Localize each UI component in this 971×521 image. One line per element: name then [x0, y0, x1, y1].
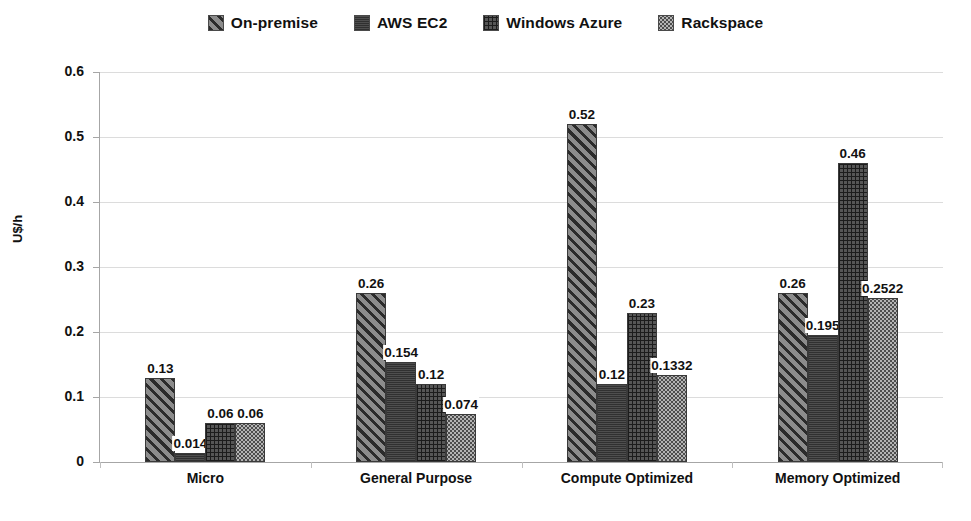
bar-rect	[416, 384, 446, 462]
x-axis-tick-label: General Purpose	[311, 470, 522, 486]
bar-value-label: 0.195	[805, 318, 841, 333]
legend-item-on-premise[interactable]: On-premise	[208, 14, 318, 32]
bar-group: 0.520.120.230.1332	[567, 72, 687, 462]
y-axis-tick	[93, 137, 100, 138]
x-axis-tick	[942, 462, 943, 468]
y-axis-tick	[93, 462, 100, 463]
x-axis-tick	[311, 462, 312, 468]
bar-value-label: 0.06	[206, 406, 234, 421]
legend-label-aws-ec2: AWS EC2	[377, 14, 447, 32]
bar-rect	[627, 313, 657, 463]
legend-swatch-icon-rackspace	[658, 15, 674, 31]
plot-area: 0.130.0140.060.060.260.1540.120.0740.520…	[100, 72, 943, 462]
bar-value-label: 0.26	[357, 276, 385, 291]
legend-item-windows-azure[interactable]: Windows Azure	[483, 14, 622, 32]
bar-rect	[205, 423, 235, 462]
bar-value-label: 0.154	[383, 345, 419, 360]
y-axis-tick	[93, 72, 100, 73]
bar-rect	[145, 378, 175, 463]
bar-rect	[868, 298, 898, 462]
legend-item-rackspace[interactable]: Rackspace	[658, 14, 763, 32]
bar[interactable]: 0.06	[235, 423, 265, 462]
y-axis-tick-label: 0.1	[0, 388, 84, 404]
bar-value-label: 0.12	[598, 367, 626, 382]
bar[interactable]: 0.52	[567, 124, 597, 462]
y-axis-tick-label: 0.2	[0, 323, 84, 339]
bar-value-label: 0.26	[778, 276, 806, 291]
bar-value-label: 0.06	[236, 406, 264, 421]
bar-rect	[446, 414, 476, 462]
bar-rect	[597, 384, 627, 462]
legend-label-rackspace: Rackspace	[681, 14, 763, 32]
bar[interactable]: 0.26	[356, 293, 386, 462]
bar-value-label: 0.074	[443, 397, 479, 412]
legend-label-windows-azure: Windows Azure	[506, 14, 622, 32]
chart-legend: On-premise AWS EC2 Windows Azure Rackspa…	[0, 14, 971, 32]
x-axis-tick	[732, 462, 733, 468]
bar-rect	[235, 423, 265, 462]
bar[interactable]: 0.12	[416, 384, 446, 462]
bar[interactable]: 0.195	[808, 335, 838, 462]
x-axis-tick-label: Micro	[100, 470, 311, 486]
legend-swatch-icon-aws-ec2	[354, 15, 370, 31]
bar-rect	[838, 163, 868, 462]
bar-chart: On-premise AWS EC2 Windows Azure Rackspa…	[0, 0, 971, 521]
bar-group: 0.260.1950.460.2522	[778, 72, 898, 462]
bar-rect	[386, 362, 416, 462]
legend-label-on-premise: On-premise	[231, 14, 318, 32]
legend-item-aws-ec2[interactable]: AWS EC2	[354, 14, 447, 32]
bar-value-label: 0.014	[172, 436, 208, 451]
bar-value-label: 0.52	[568, 107, 596, 122]
x-axis-tick-label: Memory Optimized	[732, 470, 943, 486]
bar-group: 0.130.0140.060.06	[145, 72, 265, 462]
y-axis-tick-label: 0.6	[0, 63, 84, 79]
bar[interactable]: 0.2522	[868, 298, 898, 462]
y-axis-title: U$/h	[10, 215, 25, 243]
bar-rect	[778, 293, 808, 462]
bar[interactable]: 0.1332	[657, 375, 687, 462]
bar[interactable]: 0.12	[597, 384, 627, 462]
bar[interactable]: 0.13	[145, 378, 175, 463]
y-axis-tick-label: 0.5	[0, 128, 84, 144]
y-axis-tick	[93, 267, 100, 268]
bar[interactable]: 0.23	[627, 313, 657, 463]
bar-rect	[175, 453, 205, 462]
bar-value-label: 0.46	[838, 146, 866, 161]
legend-swatch-icon-windows-azure	[483, 15, 499, 31]
bar-rect	[356, 293, 386, 462]
x-axis-tick-label: Compute Optimized	[522, 470, 733, 486]
y-axis-tick	[93, 202, 100, 203]
y-axis-tick-label: 0.3	[0, 258, 84, 274]
bar[interactable]: 0.154	[386, 362, 416, 462]
bar-value-label: 0.2522	[861, 281, 904, 296]
bar-rect	[657, 375, 687, 462]
legend-swatch-icon-on-premise	[208, 15, 224, 31]
y-axis-tick-label: 0	[0, 453, 84, 469]
bar-rect	[567, 124, 597, 462]
bar[interactable]: 0.06	[205, 423, 235, 462]
bar[interactable]: 0.26	[778, 293, 808, 462]
bar-rect	[808, 335, 838, 462]
bar-value-label: 0.23	[628, 296, 656, 311]
bar-value-label: 0.12	[417, 367, 445, 382]
bar-value-label: 0.1332	[650, 358, 693, 373]
x-axis-tick	[522, 462, 523, 468]
bar-value-label: 0.13	[146, 361, 174, 376]
y-axis-tick	[93, 397, 100, 398]
bar-group: 0.260.1540.120.074	[356, 72, 476, 462]
y-axis-tick-label: 0.4	[0, 193, 84, 209]
bar[interactable]: 0.074	[446, 414, 476, 462]
y-axis-tick	[93, 332, 100, 333]
bar[interactable]: 0.46	[838, 163, 868, 462]
bar[interactable]: 0.014	[175, 453, 205, 462]
x-axis-tick	[100, 462, 101, 468]
